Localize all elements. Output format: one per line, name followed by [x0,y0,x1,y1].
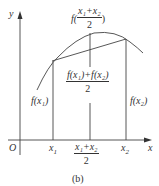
x1-label: x1 [49,143,57,156]
origin-label: O [9,143,16,153]
x-axis-label: x [148,143,152,153]
y-axis-arrow-icon [18,11,23,19]
average-of-f-label: f(x₁)+f(x₂) 2 [66,70,109,94]
midpoint-x-label: x₁+x₂ 2 [74,142,99,166]
figure-caption: (b) [72,173,84,184]
chord-line [52,39,126,61]
y-axis-label: y [9,9,13,19]
x2-label: x2 [121,143,129,156]
f-x2-label: f(x₂) [130,96,147,106]
f-x1-label: f(x₁) [31,96,48,106]
f-of-midpoint-label: f( x₁+x₂ 2 ) [71,6,105,30]
